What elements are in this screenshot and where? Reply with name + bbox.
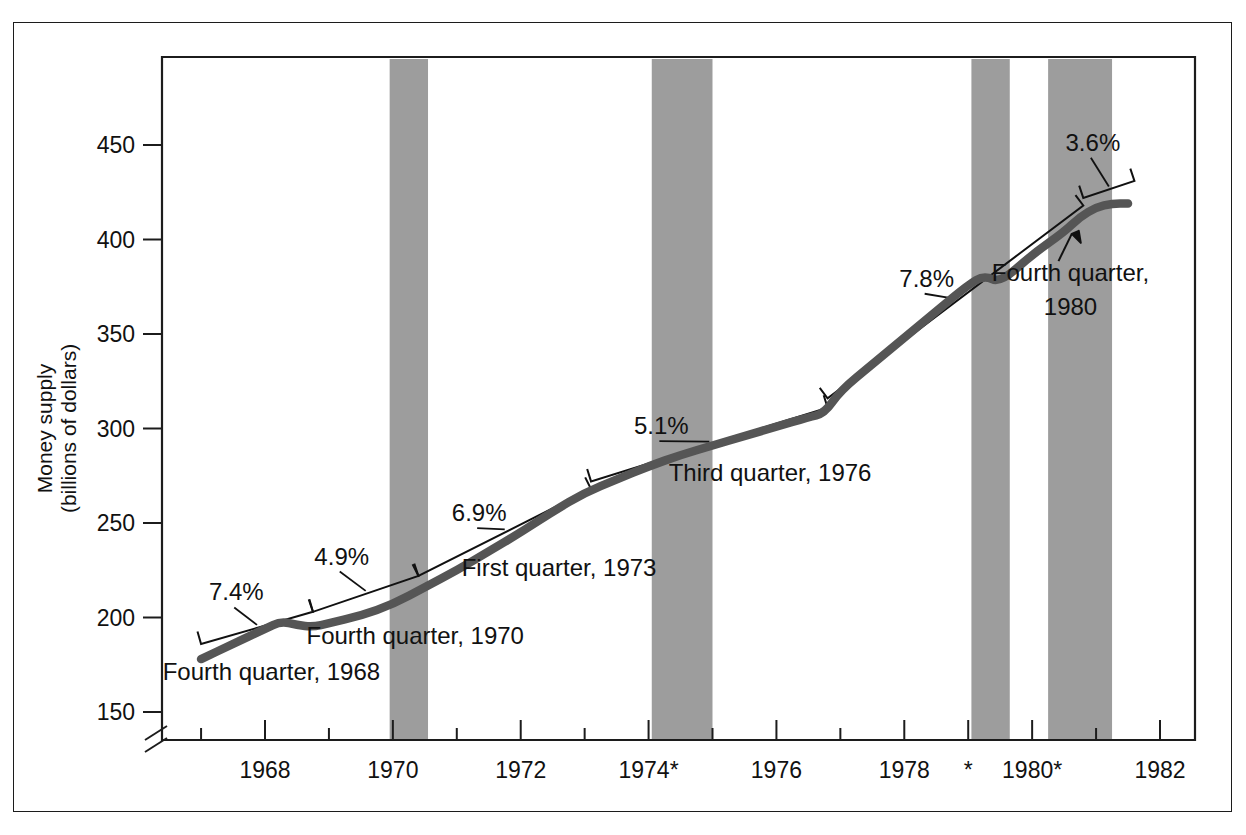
quarter-annotation: First quarter, 1973	[462, 554, 657, 581]
recession-band	[971, 59, 1009, 740]
svg-text:(billions of dollars): (billions of dollars)	[57, 344, 80, 513]
money-supply-line-chart: 1502002503003504004501968197019721974*19…	[0, 0, 1246, 835]
x-axis-tick-label: 1978	[879, 757, 930, 783]
quarter-annotation: Fourth quarter, 1970	[306, 622, 523, 649]
svg-text:Money supply: Money supply	[33, 363, 56, 493]
growth-rate-leader	[477, 528, 505, 529]
recession-band	[1048, 59, 1112, 740]
x-axis-tick-label: 1976	[751, 757, 802, 783]
y-axis-title: Money supply(billions of dollars)	[33, 344, 80, 513]
quarter-annotation: 1980	[1044, 293, 1097, 320]
growth-rate-leader	[234, 607, 257, 624]
x-axis-tick-label: 1968	[239, 757, 290, 783]
y-axis-tick-label: 350	[97, 321, 135, 347]
x-axis-tick-label: 1982	[1134, 757, 1185, 783]
y-axis-tick-label: 150	[97, 699, 135, 725]
quarter-annotation: Fourth quarter, 1968	[163, 658, 380, 685]
growth-rate-label: 5.1%	[634, 412, 689, 439]
growth-rate-label: 7.4%	[209, 578, 264, 605]
figure-page: 1502002503003504004501968197019721974*19…	[0, 0, 1246, 835]
axis-break-mark	[145, 726, 167, 740]
growth-rate-label: 6.9%	[452, 499, 507, 526]
y-axis-tick-label: 250	[97, 510, 135, 536]
x-axis-tick-label: 1970	[367, 757, 418, 783]
growth-rate-label: 7.8%	[899, 265, 954, 292]
y-axis-tick-label: 450	[97, 132, 135, 158]
recession-band	[652, 59, 713, 740]
x-axis-tick-label: 1974*	[619, 757, 679, 783]
growth-rate-label: 3.6%	[1066, 129, 1121, 156]
y-axis-tick-label: 400	[97, 227, 135, 253]
y-axis-tick-label: 200	[97, 605, 135, 631]
axis-break-mark	[145, 738, 167, 752]
growth-rate-label: 4.9%	[314, 543, 369, 570]
x-axis-tick-label: *	[964, 757, 973, 783]
quarter-annotation: Third quarter, 1976	[669, 459, 872, 486]
growth-rate-leader	[340, 572, 366, 591]
x-axis-tick-label: 1980*	[1002, 757, 1062, 783]
y-axis-tick-label: 300	[97, 416, 135, 442]
x-axis-tick-label: 1972	[495, 757, 546, 783]
quarter-annotation: Fourth quarter,	[992, 259, 1149, 286]
